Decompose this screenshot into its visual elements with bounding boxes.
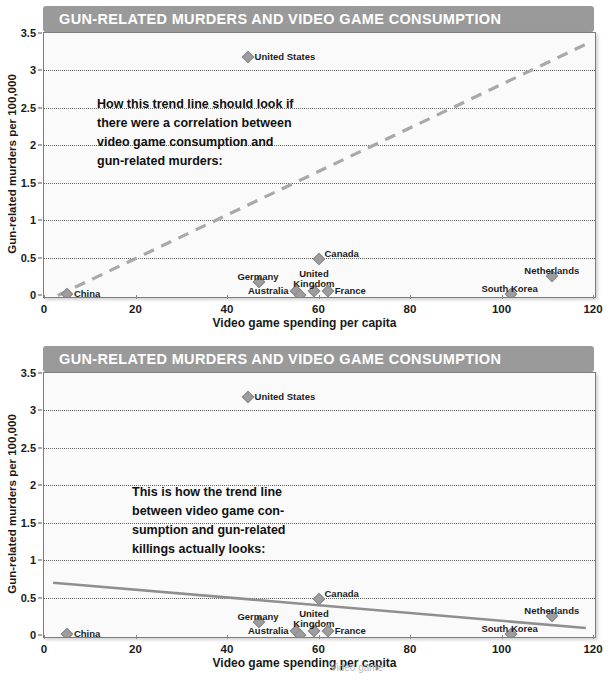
data-point-label: South Korea bbox=[481, 283, 537, 294]
y-axis-tick-label: 0 bbox=[6, 629, 36, 641]
y-axis-tick-label: 1 bbox=[6, 554, 36, 566]
x-axis-tick-mark bbox=[136, 295, 137, 299]
y-axis-tick-mark bbox=[38, 522, 42, 523]
y-axis-tick-mark bbox=[38, 373, 42, 374]
x-axis-tick-mark bbox=[227, 635, 228, 639]
y-axis-tick-label: 2 bbox=[6, 479, 36, 491]
chart-1-title-bar: GUN-RELATED MURDERS AND VIDEO GAME CONSU… bbox=[43, 6, 594, 32]
x-axis-tick-mark bbox=[410, 635, 411, 639]
y-axis-tick-mark bbox=[38, 485, 42, 486]
data-point-label: South Korea bbox=[481, 623, 537, 634]
y-axis-tick-mark bbox=[38, 145, 42, 146]
y-axis-tick-label: 2.5 bbox=[6, 442, 36, 454]
chart-2-title: GUN-RELATED MURDERS AND VIDEO GAME CONSU… bbox=[59, 351, 501, 367]
y-axis-tick-label: 1.5 bbox=[6, 177, 36, 189]
x-axis-tick-label: 40 bbox=[221, 303, 234, 315]
x-axis-tick-mark bbox=[502, 635, 503, 639]
y-axis-tick-label: 0.5 bbox=[6, 252, 36, 264]
y-axis-tick-label: 1 bbox=[6, 214, 36, 226]
chart-2-title-bar: GUN-RELATED MURDERS AND VIDEO GAME CONSU… bbox=[43, 346, 594, 372]
y-axis-tick-label: 3.5 bbox=[6, 367, 36, 379]
y-axis-tick-mark bbox=[38, 635, 42, 636]
x-axis-tick-mark bbox=[319, 295, 320, 299]
x-axis-tick-mark bbox=[502, 295, 503, 299]
y-axis-tick-mark bbox=[38, 560, 42, 561]
data-point-label: Australia bbox=[248, 625, 289, 636]
data-point-label: Canada bbox=[325, 248, 359, 259]
y-axis-tick-mark bbox=[38, 107, 42, 108]
data-point-label: China bbox=[74, 628, 100, 639]
y-axis-tick-label: 3 bbox=[6, 64, 36, 76]
x-axis-tick-label: 0 bbox=[41, 643, 47, 655]
chart-1-title: GUN-RELATED MURDERS AND VIDEO GAME CONSU… bbox=[59, 11, 501, 27]
data-point-label: Netherlands bbox=[524, 265, 579, 276]
y-axis-tick-label: 2 bbox=[6, 139, 36, 151]
data-point-label: United States bbox=[255, 391, 316, 402]
x-axis-tick-label: 60 bbox=[312, 303, 325, 315]
data-point-label: Australia bbox=[248, 285, 289, 296]
x-axis-tick-label: 80 bbox=[404, 643, 417, 655]
y-axis-tick-mark bbox=[38, 220, 42, 221]
x-axis-tick-mark bbox=[44, 295, 45, 299]
y-axis-tick-label: 1.5 bbox=[6, 517, 36, 529]
x-axis-tick-mark bbox=[227, 295, 228, 299]
y-axis-tick-label: 3 bbox=[6, 404, 36, 416]
y-axis-tick-label: 0.5 bbox=[6, 592, 36, 604]
x-axis-tick-mark bbox=[593, 635, 594, 639]
x-axis-tick-mark bbox=[410, 295, 411, 299]
y-axis-tick-mark bbox=[38, 182, 42, 183]
y-axis-tick-mark bbox=[38, 597, 42, 598]
x-axis-tick-label: 40 bbox=[221, 643, 234, 655]
y-axis-tick-label: 3.5 bbox=[6, 27, 36, 39]
x-axis-tick-label: 0 bbox=[41, 303, 47, 315]
x-axis-tick-mark bbox=[136, 635, 137, 639]
y-axis-tick-label: 2.5 bbox=[6, 102, 36, 114]
x-axis-tick-label: 80 bbox=[404, 303, 417, 315]
data-point-label: Canada bbox=[325, 588, 359, 599]
y-axis-tick-mark bbox=[38, 33, 42, 34]
data-point-label: France bbox=[335, 285, 366, 296]
x-axis-tick-mark bbox=[593, 295, 594, 299]
x-axis-tick-label: 20 bbox=[129, 643, 142, 655]
chart-annotation: This is how the trend line between video… bbox=[132, 483, 285, 559]
chart-panel-1: GUN-RELATED MURDERS AND VIDEO GAME CONSU… bbox=[0, 0, 609, 340]
x-axis-tick-label: 60 bbox=[312, 643, 325, 655]
x-axis-tick-label: 120 bbox=[583, 303, 602, 315]
y-axis-tick-mark bbox=[38, 257, 42, 258]
x-axis-tick-label: 20 bbox=[129, 303, 142, 315]
data-point-label: United States bbox=[255, 51, 316, 62]
y-axis-tick-mark bbox=[38, 410, 42, 411]
data-point-label: Germany bbox=[237, 611, 278, 622]
data-point-label: Netherlands bbox=[524, 605, 579, 616]
chart-2-plot-area: ChinaGermanyAustraliaJapanUnited Kingdom… bbox=[43, 372, 596, 638]
y-axis-tick-mark bbox=[38, 447, 42, 448]
data-point-label: France bbox=[335, 625, 366, 636]
chart-annotation: How this trend line should look if there… bbox=[97, 95, 294, 171]
data-point-label: Germany bbox=[237, 271, 278, 282]
y-axis-tick-label: 0 bbox=[6, 289, 36, 301]
x-axis-tick-label: 100 bbox=[492, 303, 511, 315]
footer-partial-text: Video game bbox=[330, 662, 383, 673]
x-axis-tick-mark bbox=[44, 635, 45, 639]
y-axis-tick-mark bbox=[38, 295, 42, 296]
y-axis-tick-mark bbox=[38, 70, 42, 71]
chart-1-x-axis-label: Video game spending per capita bbox=[0, 316, 609, 330]
x-axis-tick-label: 100 bbox=[492, 643, 511, 655]
x-axis-tick-mark bbox=[319, 635, 320, 639]
chart-panel-2: GUN-RELATED MURDERS AND VIDEO GAME CONSU… bbox=[0, 340, 609, 681]
x-axis-tick-label: 120 bbox=[583, 643, 602, 655]
data-point-label: China bbox=[74, 288, 100, 299]
chart-2-x-axis-label: Video game spending per capita bbox=[0, 656, 609, 670]
chart-1-plot-area: ChinaGermanyAustraliaJapanUnited Kingdom… bbox=[43, 32, 596, 298]
